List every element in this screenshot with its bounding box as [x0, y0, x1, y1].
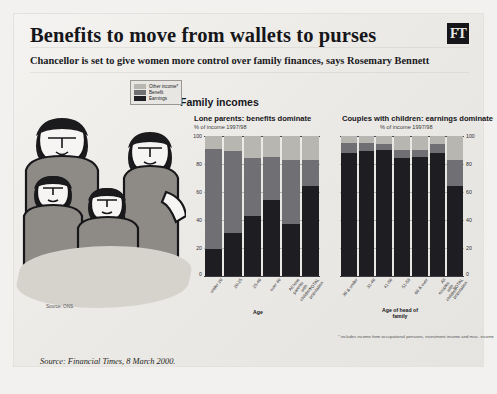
bar-segment-ben: [430, 144, 446, 152]
y-tick: 100: [186, 133, 202, 139]
x-tick-label: 30 & under: [342, 278, 359, 298]
x-axis-title: Age: [238, 310, 278, 316]
figure-source-note: Source: ONS: [46, 304, 73, 309]
bar-group-left: [204, 136, 320, 276]
x-tick-label: 25-40: [252, 278, 263, 290]
figure-area: Family incomes: [14, 76, 483, 366]
chart-subtitle: % of income 1997/98: [380, 124, 433, 130]
x-tick-label: over 40: [269, 278, 282, 293]
chart-title: Lone parents: benefits dominate: [194, 114, 311, 123]
x-tick-label: under 20: [210, 278, 225, 295]
standfirst: Chancellor is set to give women more con…: [30, 55, 469, 66]
bar-segment-earn: [224, 233, 241, 276]
bar-segment-earn: [244, 216, 261, 276]
bar-segment-oth: [282, 136, 299, 160]
chart-couples-with-children: Couples with children: earnings dominate…: [336, 114, 484, 319]
x-tick-label: TOTAL population: [449, 278, 469, 300]
bar-segment-ben: [302, 160, 319, 187]
y-tick: 100: [466, 133, 482, 139]
bar-lone-parents-4: [282, 136, 299, 276]
family-illustration-icon: [18, 96, 186, 306]
bar-segment-earn: [394, 158, 410, 276]
y-tick: 80: [186, 161, 202, 167]
bar-segment-earn: [302, 186, 319, 276]
chart-title: Couples with children: earnings dominate: [342, 114, 493, 123]
bar-segment-earn: [205, 249, 222, 276]
divider-top: [30, 47, 469, 48]
bar-segment-ben: [394, 150, 410, 158]
y-tick: 40: [466, 217, 482, 223]
divider-bottom: [30, 72, 469, 73]
newspaper-clipping: Benefits to move from wallets to purses …: [14, 14, 483, 366]
bar-segment-ben: [412, 150, 428, 157]
bar-couples-with-children-4: [412, 136, 428, 276]
legend-swatch-earnings-icon: [134, 96, 146, 101]
plot-area-right: 100 80 60 40 20 0: [340, 136, 464, 277]
y-tick: 0: [466, 271, 482, 277]
x-tick-label: TOTAL population: [305, 278, 325, 300]
bar-segment-oth: [376, 136, 392, 144]
y-tick: 60: [466, 189, 482, 195]
y-tick: 40: [186, 217, 202, 223]
bar-segment-oth: [412, 136, 428, 150]
bar-segment-ben: [447, 160, 463, 187]
bar-group-right: [340, 136, 464, 276]
bar-segment-ben: [263, 157, 280, 200]
bar-segment-earn: [263, 200, 280, 276]
attribution-line: Source: Financial Times, 8 March 2000.: [40, 357, 175, 366]
bar-segment-ben: [244, 158, 261, 215]
chart-lone-parents: Lone parents: benefits dominate % of inc…: [186, 114, 326, 319]
y-tick: 20: [466, 245, 482, 251]
bar-couples-with-children-6: [447, 136, 463, 276]
ft-logo-icon: FT: [447, 23, 469, 44]
chart-subtitle: % of income 1997/98: [194, 124, 247, 130]
legend-swatch-other-icon: [134, 84, 146, 89]
bar-segment-oth: [341, 136, 357, 143]
bar-couples-with-children-0: [341, 136, 357, 276]
legend-item: Other income*: [134, 84, 178, 89]
figure-footnote: * includes income from occupational pens…: [338, 334, 494, 339]
x-tick-label: 60 & over: [414, 278, 429, 296]
legend-label: Other income*: [149, 84, 178, 89]
bar-segment-oth: [447, 136, 463, 160]
bar-segment-ben: [282, 160, 299, 224]
bar-segment-oth: [224, 136, 241, 151]
bar-segment-oth: [205, 136, 222, 149]
bar-segment-earn: [430, 153, 446, 276]
bar-segment-oth: [263, 136, 280, 157]
bar-segment-earn: [359, 151, 375, 276]
bar-lone-parents-1: [224, 136, 241, 276]
bar-segment-earn: [376, 150, 392, 276]
bar-segment-oth: [430, 136, 446, 144]
legend-label: Earnings: [149, 96, 167, 101]
bar-segment-oth: [394, 136, 410, 150]
y-tick: 80: [466, 161, 482, 167]
y-tick: 20: [186, 245, 202, 251]
x-axis-title: Age of head of family: [380, 308, 420, 320]
bar-couples-with-children-3: [394, 136, 410, 276]
bar-segment-ben: [224, 151, 241, 232]
y-tick: 0: [186, 271, 202, 277]
legend-swatch-benefit-icon: [134, 90, 146, 95]
legend-label: Benefit: [149, 90, 163, 95]
bar-segment-earn: [282, 224, 299, 276]
bar-segment-ben: [205, 149, 222, 250]
bar-segment-ben: [341, 143, 357, 153]
legend-item: Benefit: [134, 90, 178, 95]
chart-legend: Other income* Benefit Earnings: [130, 80, 182, 105]
bar-segment-earn: [412, 157, 428, 276]
bar-couples-with-children-2: [376, 136, 392, 276]
bar-lone-parents-5: [302, 136, 319, 276]
bar-segment-oth: [244, 136, 261, 158]
x-tick-label: 51-59: [401, 278, 412, 290]
bar-lone-parents-3: [263, 136, 280, 276]
x-tick-label: 31-40: [366, 278, 377, 290]
x-tick-label: 20-25: [233, 278, 244, 290]
bar-segment-earn: [447, 186, 463, 276]
plot-area-left: 100 80 60 40 20 0: [204, 136, 320, 277]
bar-segment-earn: [341, 153, 357, 276]
x-tick-label: 41-50: [384, 278, 395, 290]
bar-couples-with-children-1: [359, 136, 375, 276]
bar-couples-with-children-5: [430, 136, 446, 276]
screenshot-page: Benefits to move from wallets to purses …: [0, 0, 497, 394]
